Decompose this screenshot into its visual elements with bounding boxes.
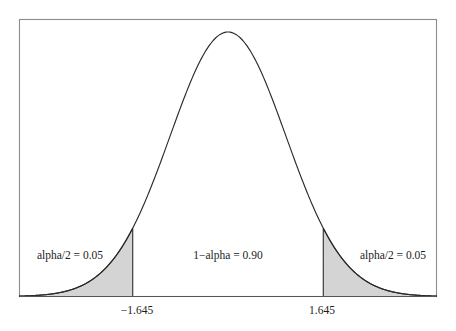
x-tick-label-negative: −1.645 [121, 304, 154, 316]
normal-distribution-figure: alpha/2 = 0.05 1−alpha = 0.90 alpha/2 = … [0, 0, 456, 331]
right-tail-annotation: alpha/2 = 0.05 [360, 249, 426, 262]
x-tick-label-positive: 1.645 [309, 304, 335, 316]
distribution-chart: alpha/2 = 0.05 1−alpha = 0.90 alpha/2 = … [0, 0, 456, 331]
center-region-annotation: 1−alpha = 0.90 [193, 249, 263, 262]
left-tail-annotation: alpha/2 = 0.05 [37, 249, 103, 262]
